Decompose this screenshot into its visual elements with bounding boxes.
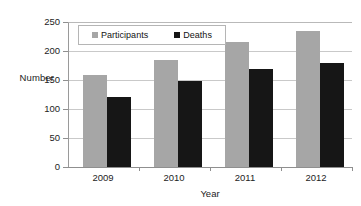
y-tick-label-200: 200 xyxy=(20,46,60,56)
x-tick-label-2011: 2011 xyxy=(215,172,275,183)
x-axis-title: Year xyxy=(68,188,352,199)
bar-participants-2009[interactable] xyxy=(83,75,107,167)
y-tick-label-150: 150 xyxy=(20,75,60,85)
x-tick-label-2012: 2012 xyxy=(286,172,346,183)
y-tick-label-250: 250 xyxy=(20,17,60,27)
x-tick-mark-3 xyxy=(281,167,282,171)
bar-participants-2011[interactable] xyxy=(225,42,249,167)
x-tick-label-2009: 2009 xyxy=(73,172,133,183)
bar-group-2012 xyxy=(290,22,352,167)
legend-label-deaths: Deaths xyxy=(183,30,212,40)
x-tick-mark-4 xyxy=(352,167,353,171)
y-tick-label-0: 0 xyxy=(20,162,60,172)
chart-legend: Participants Deaths xyxy=(78,25,226,45)
x-tick-label-2010: 2010 xyxy=(144,172,204,183)
legend-label-participants: Participants xyxy=(101,30,148,40)
bar-participants-2010[interactable] xyxy=(154,60,178,167)
y-tick-label-50: 50 xyxy=(20,133,60,143)
bar-deaths-2009[interactable] xyxy=(107,97,131,167)
y-tick-label-100: 100 xyxy=(20,104,60,114)
legend-item-deaths[interactable]: Deaths xyxy=(174,30,212,40)
bar-deaths-2011[interactable] xyxy=(249,69,273,167)
bar-deaths-2010[interactable] xyxy=(178,81,202,167)
bar-group-2011 xyxy=(219,22,281,167)
bar-chart-figure: Number 250 200 150 100 50 0 xyxy=(0,0,361,206)
bar-participants-2012[interactable] xyxy=(296,31,320,167)
x-tick-mark-2 xyxy=(210,167,211,171)
x-tick-mark-1 xyxy=(139,167,140,171)
square-black-icon xyxy=(174,32,180,38)
square-gray-icon xyxy=(92,32,98,38)
bar-deaths-2012[interactable] xyxy=(320,63,344,167)
legend-item-participants[interactable]: Participants xyxy=(92,30,148,40)
